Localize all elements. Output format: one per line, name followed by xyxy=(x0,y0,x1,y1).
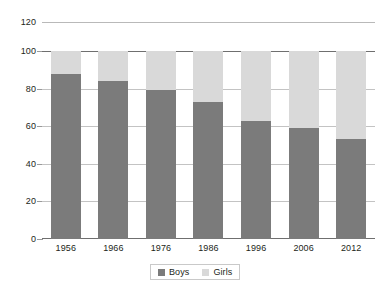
bar-segment-boys-1956[interactable] xyxy=(51,74,81,239)
bar-column-1966[interactable] xyxy=(98,51,128,239)
bar-segment-girls-1956[interactable] xyxy=(51,51,81,74)
legend-item-boys[interactable]: Boys xyxy=(158,267,189,277)
bar-column-2006[interactable] xyxy=(289,51,319,239)
bar-segment-girls-1996[interactable] xyxy=(241,51,271,121)
top-reference-gridline xyxy=(42,22,375,23)
top-axis-row: 120 xyxy=(0,14,384,30)
bar-series-container xyxy=(42,51,375,239)
bar-segment-girls-1976[interactable] xyxy=(146,51,176,90)
axis-tick-mark-0 xyxy=(37,239,43,240)
bar-column-1976[interactable] xyxy=(146,51,176,239)
bar-column-1986[interactable] xyxy=(193,51,223,239)
legend-item-girls[interactable]: Girls xyxy=(202,267,232,277)
x-axis-label-2012: 2012 xyxy=(336,241,366,255)
axis-tick-label-80: 80 xyxy=(6,84,36,94)
plot-area xyxy=(42,51,375,239)
bar-column-1996[interactable] xyxy=(241,51,271,239)
axis-tick-label-0: 0 xyxy=(6,234,36,244)
bar-segment-boys-1966[interactable] xyxy=(98,81,128,239)
bar-segment-boys-1976[interactable] xyxy=(146,90,176,239)
legend-label-boys: Boys xyxy=(169,267,189,277)
x-axis-label-1996: 1996 xyxy=(241,241,271,255)
x-axis-label-row: 1956196619761986199620062012 xyxy=(42,241,375,255)
x-axis-label-1976: 1976 xyxy=(146,241,176,255)
girls-swatch-icon xyxy=(202,269,209,276)
axis-tick-label-40: 40 xyxy=(6,159,36,169)
axis-tick-label-20: 20 xyxy=(6,196,36,206)
x-axis-label-2006: 2006 xyxy=(289,241,319,255)
stacked-bar-chart: 120 100806040200 19561966197619861996200… xyxy=(0,0,384,295)
bar-segment-boys-1986[interactable] xyxy=(193,102,223,239)
bar-segment-girls-2006[interactable] xyxy=(289,51,319,128)
bar-segment-girls-2012[interactable] xyxy=(336,51,366,139)
x-axis-label-1956: 1956 xyxy=(51,241,81,255)
bar-column-2012[interactable] xyxy=(336,51,366,239)
axis-tick-label-120: 120 xyxy=(8,14,36,30)
bar-segment-girls-1966[interactable] xyxy=(98,51,128,81)
x-axis-label-1966: 1966 xyxy=(98,241,128,255)
bar-segment-boys-2006[interactable] xyxy=(289,128,319,239)
axis-tick-label-60: 60 xyxy=(6,121,36,131)
bar-segment-boys-2012[interactable] xyxy=(336,139,366,239)
axis-tick-label-100: 100 xyxy=(6,46,36,56)
x-axis-label-1986: 1986 xyxy=(193,241,223,255)
legend-label-girls: Girls xyxy=(213,267,232,277)
bar-segment-girls-1986[interactable] xyxy=(193,51,223,102)
bar-segment-boys-1996[interactable] xyxy=(241,121,271,239)
bar-column-1956[interactable] xyxy=(51,51,81,239)
boys-swatch-icon xyxy=(158,269,165,276)
chart-legend: BoysGirls xyxy=(150,264,240,280)
